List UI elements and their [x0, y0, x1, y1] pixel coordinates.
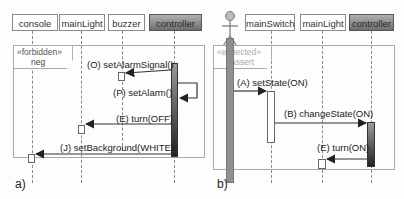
arrow-p-self — [178, 83, 197, 98]
arrow-o — [126, 70, 171, 73]
message-arrows — [0, 0, 404, 199]
